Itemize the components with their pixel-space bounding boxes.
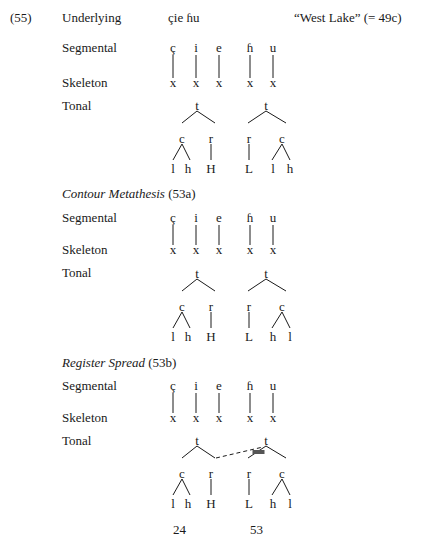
branch-line xyxy=(182,279,197,291)
branch-line xyxy=(182,446,197,458)
branch-line xyxy=(173,144,182,160)
delink-mark xyxy=(253,450,265,454)
branch-line xyxy=(272,312,282,328)
branch-line xyxy=(282,144,290,160)
branch-line xyxy=(248,111,266,123)
branch-line xyxy=(282,312,290,328)
branch-line xyxy=(173,312,182,328)
branch-line xyxy=(197,279,215,291)
branch-line xyxy=(272,144,282,160)
branch-line xyxy=(282,479,290,495)
branch-line xyxy=(266,446,286,458)
branch-line xyxy=(173,479,182,495)
branch-line xyxy=(197,111,215,123)
branch-line xyxy=(197,446,215,458)
branch-line xyxy=(272,479,282,495)
tone-value-2: 53 xyxy=(250,523,263,536)
branch-line xyxy=(182,144,190,160)
branch-line xyxy=(182,312,190,328)
autosegmental-diagram xyxy=(0,0,428,544)
branch-line xyxy=(266,279,286,291)
branch-line xyxy=(182,479,190,495)
branch-line xyxy=(182,111,197,123)
branch-line xyxy=(248,279,266,291)
tone-value-1: 24 xyxy=(173,523,186,536)
branch-line xyxy=(266,111,286,123)
